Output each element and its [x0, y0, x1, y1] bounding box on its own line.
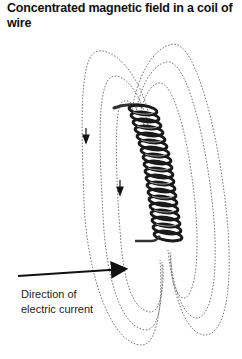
field-lines-right — [132, 44, 229, 335]
label-line-2: electric current — [21, 302, 93, 317]
coil-turns — [129, 104, 183, 243]
label-line-1: Direction of — [21, 287, 93, 302]
current-direction-label: Direction of electric current — [21, 287, 93, 317]
current-direction-arrow — [18, 269, 124, 276]
